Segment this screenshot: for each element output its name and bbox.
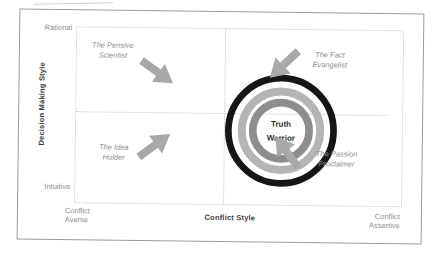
quadrant-label-passion-proclaimer: The Passion Proclaimer [301, 149, 371, 169]
chart-frame: Decision Making Style Rational Intuitive… [17, 9, 425, 245]
quadrant-label-fact-evangelist: The Fact Evangelist [295, 50, 365, 70]
center-label-line1: Truth [271, 120, 291, 129]
quadrant-label-pensive-scientist: The Pensive Scientist [78, 40, 148, 60]
quadrant-label-line: Scientist [78, 50, 148, 60]
y-tick-rational: Rational [26, 23, 72, 33]
y-axis-title: Decision Making Style [37, 60, 48, 148]
x-tick-line: Assertive [320, 221, 400, 230]
quadrant-label-line: Proclaimer [301, 158, 371, 168]
x-tick-line: Averse [65, 216, 90, 225]
y-tick-intuitive: Intuitive [24, 182, 70, 192]
quadrant-label-idea-holder: The Idea Holder [79, 142, 149, 162]
quadrant-label-line: Evangelist [295, 59, 365, 69]
quadrant-label-line: Holder [79, 152, 149, 162]
x-tick-conflict-averse: Conflict Averse [65, 207, 90, 224]
cropped-artifact-line [33, 2, 113, 5]
x-axis-title: Conflict Style [170, 212, 290, 222]
x-tick-conflict-assertive: Conflict Assertive [320, 212, 400, 230]
screenshot-canvas: Decision Making Style Rational Intuitive… [0, 0, 435, 254]
